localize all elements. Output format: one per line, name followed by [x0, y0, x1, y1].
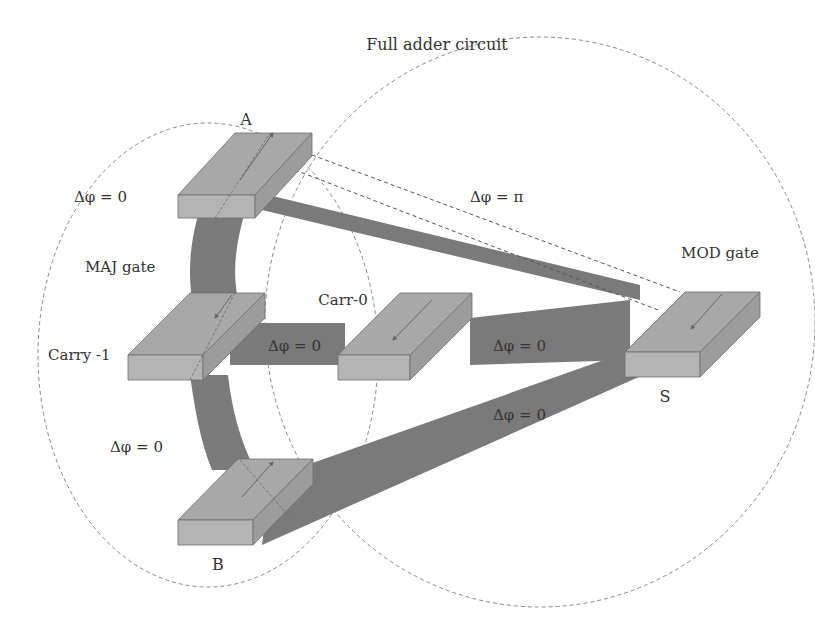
label-carr0: Carr-0 — [318, 291, 367, 309]
full-adder-diagram: Full adder circuit A B Carry -1 Carr-0 S… — [0, 0, 815, 619]
waveguide-carr0-s — [470, 300, 630, 365]
label-a: A — [239, 110, 252, 129]
label-carry1: Carry -1 — [48, 346, 111, 364]
waveguide-a-carry1 — [190, 215, 244, 300]
waveguide-a-s — [248, 190, 640, 300]
label-maj-gate: MAJ gate — [85, 258, 156, 276]
label-b: B — [212, 555, 224, 574]
waveguide-carry1-b — [190, 375, 255, 470]
block-s — [625, 292, 760, 377]
block-carry1 — [128, 293, 265, 380]
phase-a-left: Δφ = 0 — [74, 188, 127, 206]
waveguide-b-s — [262, 350, 650, 545]
block-b — [178, 459, 313, 545]
phase-a-s: Δφ = π — [470, 188, 523, 206]
phase-b-s: Δφ = 0 — [493, 406, 546, 424]
diagram-title: Full adder circuit — [366, 35, 508, 54]
phase-carr0-s: Δφ = 0 — [493, 337, 546, 355]
phase-carry1-carr0: Δφ = 0 — [268, 337, 321, 355]
phase-maj-b: Δφ = 0 — [110, 438, 163, 456]
label-mod-gate: MOD gate — [681, 244, 759, 262]
label-s: S — [660, 387, 671, 406]
